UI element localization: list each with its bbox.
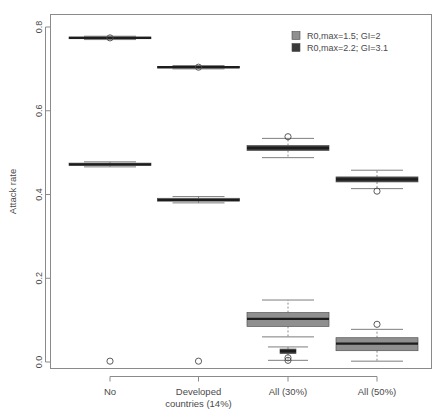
x-axis: NoDevelopedcountries (14%)All (30%)All (…: [104, 377, 396, 409]
x-tick-label: All (50%): [358, 386, 397, 397]
x-tick-label: Developed: [176, 386, 221, 397]
outlier-point: [285, 134, 291, 140]
boxplot-0-series-dark: [69, 35, 151, 41]
boxplot-3-series-light: [336, 321, 418, 361]
boxplot-1-series-light: [158, 197, 240, 365]
boxplot-figure: 0.00.20.40.60.8Attack rateNoDevelopedcou…: [0, 0, 440, 409]
boxplot-2-series-dark: [247, 134, 329, 158]
legend: R0,max=1.5; GI=2R0,max=2.2; GI=3.1: [292, 31, 388, 53]
x-tick-label: All (30%): [269, 386, 308, 397]
legend-label: R0,max=1.5; GI=2: [307, 31, 381, 41]
boxplot-canvas: 0.00.20.40.60.8Attack rateNoDevelopedcou…: [0, 0, 440, 409]
y-axis: 0.00.20.40.60.8: [34, 21, 51, 369]
outlier-point: [107, 358, 113, 364]
y-tick-label: 0.8: [34, 21, 44, 34]
y-tick-label: 0.6: [34, 104, 44, 117]
legend-label: R0,max=2.2; GI=3.1: [307, 43, 388, 53]
y-tick-label: 0.2: [34, 272, 44, 285]
y-tick-label: 0.4: [34, 188, 44, 201]
y-tick-label: 0.0: [34, 356, 44, 369]
x-tick-label: countries (14%): [165, 398, 232, 409]
boxplot-2-series-light: [247, 300, 329, 337]
outlier-point: [195, 358, 201, 364]
boxplot-3-series-dark: [336, 170, 418, 194]
boxplot-1-series-dark: [158, 64, 240, 70]
outlier-point: [374, 321, 380, 327]
y-axis-title: Attack rate: [7, 169, 18, 214]
legend-swatch: [292, 44, 300, 52]
boxplot-0-series-light: [69, 162, 151, 364]
legend-swatch: [292, 32, 300, 40]
boxplot-extra-low-cluster: [268, 347, 308, 364]
x-tick-label: No: [104, 386, 116, 397]
